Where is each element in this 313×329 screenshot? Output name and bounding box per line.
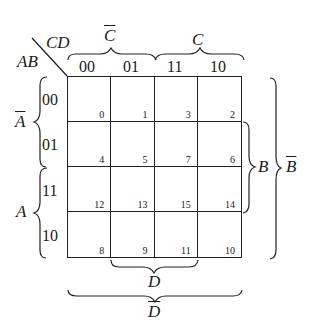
- minterm-index: 8: [99, 245, 104, 256]
- minterm-index: 2: [230, 109, 235, 120]
- row-code-00: 00: [42, 91, 58, 109]
- minterm-index: 11: [181, 245, 191, 256]
- kmap-cell-15: 15: [155, 167, 198, 212]
- kmap-cell-8: 8: [68, 212, 111, 257]
- row-code-10: 10: [42, 227, 58, 245]
- kmap-cell-10: 10: [198, 212, 241, 257]
- col-code-01: 01: [123, 58, 139, 76]
- d-label: D: [148, 272, 160, 292]
- minterm-index: 1: [143, 109, 148, 120]
- row-code-11: 11: [42, 182, 57, 200]
- c-label: C: [192, 30, 203, 50]
- minterm-index: 9: [143, 245, 148, 256]
- b-label: B: [258, 157, 268, 177]
- kmap-cell-1: 1: [111, 77, 154, 122]
- a-label: A: [16, 202, 26, 222]
- kmap-cell-4: 4: [68, 122, 111, 167]
- kmap-cell-3: 3: [155, 77, 198, 122]
- minterm-index: 15: [181, 199, 191, 210]
- kmap-cell-14: 14: [198, 167, 241, 212]
- row-code-01: 01: [42, 136, 58, 154]
- d-bar-label: D: [148, 302, 160, 322]
- col-code-11: 11: [167, 58, 182, 76]
- kmap-cell-7: 7: [155, 122, 198, 167]
- c-bar-label: C: [104, 26, 115, 46]
- kmap-cell-12: 12: [68, 167, 111, 212]
- kmap-cell-2: 2: [198, 77, 241, 122]
- karnaugh-map-grid: 0 1 3 2 4 5 7 6 12 13 15 14 8 9 11 10: [67, 76, 242, 258]
- minterm-index: 4: [99, 154, 104, 165]
- col-code-00: 00: [79, 58, 95, 76]
- kmap-cell-11: 11: [155, 212, 198, 257]
- minterm-index: 0: [99, 109, 104, 120]
- kmap-cell-6: 6: [198, 122, 241, 167]
- kmap-cell-9: 9: [111, 212, 154, 257]
- minterm-index: 12: [94, 199, 104, 210]
- col-code-10: 10: [210, 58, 226, 76]
- minterm-index: 6: [230, 154, 235, 165]
- minterm-index: 3: [186, 109, 191, 120]
- kmap-cell-13: 13: [111, 167, 154, 212]
- minterm-index: 13: [138, 199, 148, 210]
- kmap-cell-0: 0: [68, 77, 111, 122]
- a-bar-label: A: [15, 112, 25, 132]
- minterm-index: 7: [186, 154, 191, 165]
- column-variables-label: CD: [46, 33, 70, 53]
- minterm-index: 10: [225, 245, 235, 256]
- kmap-cell-5: 5: [111, 122, 154, 167]
- minterm-index: 5: [143, 154, 148, 165]
- b-bar-label: B: [286, 157, 296, 177]
- minterm-index: 14: [225, 199, 235, 210]
- row-variables-label: AB: [17, 52, 38, 72]
